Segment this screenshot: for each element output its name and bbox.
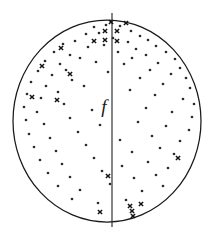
data-point-dot <box>105 24 108 27</box>
data-point-dot <box>101 170 104 173</box>
data-point-dot <box>119 25 122 28</box>
data-point-dot <box>69 54 72 57</box>
data-point-dot <box>130 30 133 33</box>
data-point-dot <box>77 131 80 134</box>
data-point-dot <box>147 39 150 42</box>
data-point-dot <box>121 165 124 168</box>
figure-container: f <box>0 0 219 232</box>
data-point-dot <box>125 199 128 202</box>
data-point-dot <box>28 133 31 136</box>
data-point-dot <box>51 74 54 77</box>
data-point-dot <box>107 71 110 74</box>
data-point-dot <box>182 98 185 101</box>
data-point-dot <box>149 69 152 72</box>
data-point-dot <box>185 77 188 80</box>
data-point-dot <box>147 161 150 164</box>
data-point-dot <box>133 177 136 180</box>
data-point-dot <box>23 106 26 109</box>
data-point-dot <box>83 85 86 88</box>
data-point-dot <box>85 33 88 36</box>
data-point-dot <box>165 125 168 128</box>
data-point-dot <box>131 57 134 60</box>
data-point-dot <box>129 89 132 92</box>
data-point-dot <box>57 91 60 94</box>
data-point-dot <box>33 146 36 149</box>
data-point-dot <box>36 111 39 114</box>
data-point-dot <box>71 79 74 82</box>
data-point-dot <box>159 147 162 150</box>
data-point-dot <box>99 124 102 127</box>
data-point-dot <box>55 150 58 153</box>
data-point-dot <box>131 151 134 154</box>
data-point-dot <box>25 119 28 122</box>
data-point-dot <box>93 26 96 29</box>
data-point-dot <box>165 51 168 54</box>
data-point-dot <box>39 159 42 162</box>
data-point-dot <box>174 58 177 61</box>
data-point-dot <box>139 77 142 80</box>
data-point-dot <box>59 63 62 66</box>
boundary-group <box>13 20 201 222</box>
data-point-dot <box>74 40 77 43</box>
scatter-diagram: f <box>0 0 219 232</box>
data-point-dot <box>162 83 165 86</box>
data-point-dot <box>71 198 74 201</box>
data-point-dot <box>173 153 176 156</box>
data-point-dot <box>162 185 165 188</box>
data-point-dot <box>141 190 144 193</box>
data-point-dot <box>97 202 100 205</box>
data-point-dot <box>145 107 148 110</box>
data-point-dot <box>47 172 50 175</box>
data-point-dot <box>37 70 40 73</box>
data-point-dot <box>79 57 82 60</box>
data-point-dot <box>155 45 158 48</box>
data-point-dot <box>43 123 46 126</box>
data-point-dot <box>26 93 29 96</box>
data-point-dot <box>62 43 65 46</box>
data-point-dot <box>85 144 88 147</box>
data-point-dot <box>154 94 157 97</box>
data-point-dot <box>170 73 173 76</box>
data-point-dot <box>98 32 101 35</box>
data-point-dot <box>87 46 90 49</box>
data-point-dot <box>44 60 47 63</box>
data-point-dot <box>93 157 96 160</box>
data-point-dot <box>69 176 72 179</box>
data-point-dot <box>95 61 98 64</box>
data-point-dot <box>30 81 33 84</box>
data-point-dot <box>91 109 94 112</box>
data-point-dot <box>40 97 43 100</box>
data-point-dot <box>123 63 126 66</box>
data-point-dot <box>109 183 112 186</box>
primitive-circle <box>13 20 201 222</box>
data-point-dot <box>157 62 160 65</box>
data-point-dot <box>188 129 191 132</box>
data-point-dot <box>119 139 122 142</box>
data-point-dot <box>69 117 72 120</box>
data-point-dot <box>155 174 158 177</box>
data-point-dot <box>135 48 138 51</box>
data-point-dot <box>63 103 66 106</box>
data-point-dot <box>167 167 170 170</box>
data-point-dot <box>145 54 148 57</box>
data-point-dot <box>61 163 64 166</box>
data-point-dot <box>137 121 140 124</box>
data-point-dot <box>189 87 192 90</box>
data-point-dot <box>53 51 56 54</box>
data-point-dot <box>57 185 60 188</box>
data-point-dot <box>127 41 130 44</box>
data-point-dot <box>191 116 194 119</box>
data-point-dot <box>49 137 52 140</box>
data-point-dot <box>45 85 48 88</box>
data-point-dot <box>179 140 182 143</box>
data-point-dot <box>193 103 196 106</box>
data-point-dot <box>79 189 82 192</box>
data-point-dot <box>139 35 142 38</box>
data-point-dot <box>171 111 174 114</box>
data-point-dot <box>117 51 120 54</box>
data-point-dot <box>151 135 154 138</box>
data-point-dot <box>103 44 106 47</box>
data-point-dot <box>65 69 68 72</box>
data-point-dot <box>179 67 182 70</box>
